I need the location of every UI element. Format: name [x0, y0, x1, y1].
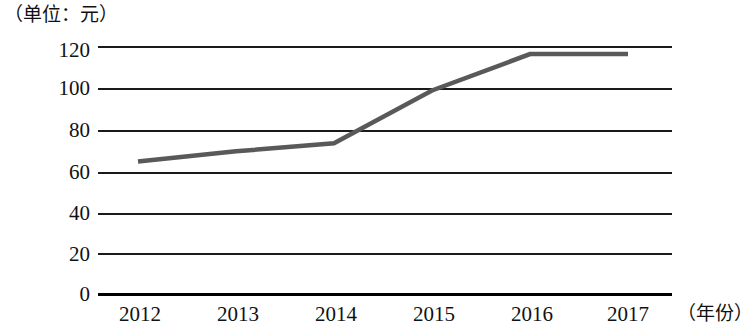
x-tick-label-2014: 2014 — [291, 302, 381, 326]
x-tick-label-2015: 2015 — [389, 302, 479, 326]
gridline-60 — [98, 172, 672, 174]
y-tick-label-40: 40 — [20, 203, 90, 224]
x-axis-title: （年份） — [677, 302, 749, 326]
gridline-100 — [98, 88, 672, 90]
y-tick-label-120: 120 — [20, 40, 90, 61]
y-tick-label-60: 60 — [20, 162, 90, 183]
gridline-120 — [98, 46, 672, 48]
gridline-20 — [98, 253, 672, 255]
x-axis-tick-labels: 2012 2013 2014 2015 2016 2017 （年份） — [0, 302, 749, 329]
x-tick-label-2016: 2016 — [487, 302, 577, 326]
y-axis-tick-labels: 120 100 80 60 40 20 0 — [14, 0, 90, 329]
gridline-40 — [98, 213, 672, 215]
x-tick-label-2012: 2012 — [95, 302, 185, 326]
x-tick-label-2017: 2017 — [583, 302, 673, 326]
y-tick-label-80: 80 — [20, 120, 90, 141]
x-axis-line — [98, 293, 672, 296]
x-tick-label-2013: 2013 — [193, 302, 283, 326]
gridline-80 — [98, 130, 672, 132]
y-tick-label-20: 20 — [20, 244, 90, 265]
plot-area — [98, 46, 672, 297]
y-tick-label-100: 100 — [20, 78, 90, 99]
line-chart: （单位：元） 120 100 80 60 40 20 0 2012 2013 2… — [0, 0, 749, 329]
